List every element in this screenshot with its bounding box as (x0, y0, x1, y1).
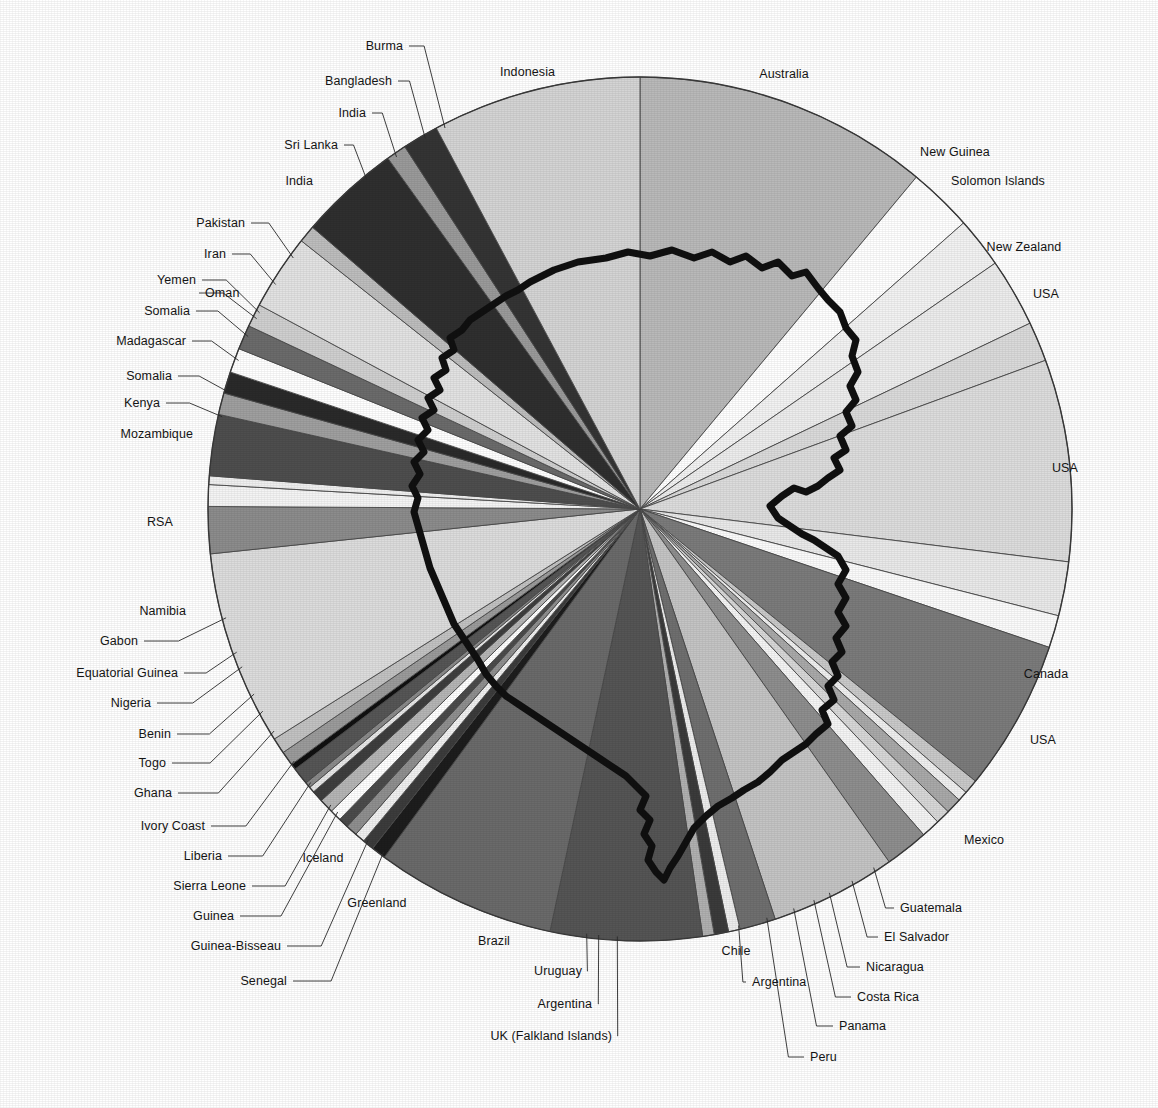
leader-line (587, 934, 588, 971)
slice-label-mozambique: Mozambique (120, 428, 193, 441)
slice-label-equatorial-guinea: Equatorial Guinea (76, 667, 178, 680)
leader-line (829, 893, 860, 967)
slice-label-gabon: Gabon (100, 635, 138, 648)
slice-label-mexico: Mexico (964, 834, 1004, 847)
slice-label-usa-1: USA (1033, 288, 1059, 301)
slice-label-bangladesh: Bangladesh (325, 75, 392, 88)
slice-label-argentina-1: Argentina (752, 976, 806, 989)
slice-label-uk-falkland: UK (Falkland Islands) (490, 1030, 612, 1043)
slice-label-india-1: India (338, 107, 366, 120)
slice-label-brazil: Brazil (478, 935, 510, 948)
leader-line (184, 652, 237, 673)
slice-label-senegal: Senegal (240, 975, 287, 988)
leader-line (814, 900, 851, 997)
leader-line (196, 311, 248, 337)
leader-line (344, 145, 367, 180)
slice-label-usa-3: USA (1030, 734, 1056, 747)
leader-line (293, 852, 384, 981)
slice-label-ghana: Ghana (134, 787, 172, 800)
leader-line (794, 908, 833, 1026)
slice-label-solomon-islands: Solomon Islands (951, 175, 1045, 188)
pie-wheel-chart (0, 0, 1158, 1108)
leader-line (144, 618, 226, 641)
slice-label-ivory-coast: Ivory Coast (141, 820, 205, 833)
slice-label-togo: Togo (138, 757, 166, 770)
leader-line (178, 376, 228, 392)
slice-label-new-zealand: New Zealand (987, 241, 1062, 254)
slice-label-sri-lanka: Sri Lanka (284, 139, 338, 152)
slice-label-australia: Australia (759, 68, 809, 81)
slice-label-somalia-2: Somalia (126, 370, 172, 383)
slice-label-nigeria: Nigeria (111, 697, 151, 710)
slice-label-yemen: Yemen (157, 274, 196, 287)
leader-line (409, 46, 445, 128)
slice-label-iran: Iran (204, 248, 226, 261)
slice-label-greenland: Greenland (347, 897, 406, 910)
slice-label-chile: Chile (722, 945, 751, 958)
slice-label-canada: Canada (1024, 668, 1068, 681)
slice-label-oman: Oman (205, 287, 239, 300)
leader-line (874, 868, 894, 908)
leader-line (232, 254, 276, 285)
leader-line (598, 935, 599, 1004)
leader-line (166, 403, 222, 417)
slice-label-pakistan: Pakistan (196, 217, 245, 230)
slice-label-costa-rica: Costa Rica (857, 991, 919, 1004)
slice-label-guatemala: Guatemala (900, 902, 962, 915)
leader-line (177, 694, 254, 734)
slice-label-nicaragua: Nicaragua (866, 961, 924, 974)
leader-line (228, 782, 311, 856)
leader-line (178, 731, 274, 793)
slice-label-peru: Peru (810, 1051, 837, 1064)
slice-label-iceland: Iceland (302, 852, 343, 865)
slice-label-guinea: Guinea (193, 910, 234, 923)
slice-label-liberia: Liberia (184, 850, 222, 863)
slice-label-panama: Panama (839, 1020, 886, 1033)
figure-canvas: BurmaIndonesiaAustraliaBangladeshIndiaNe… (0, 0, 1158, 1108)
leader-line (192, 341, 239, 361)
slice-label-argentina-2: Argentina (538, 998, 592, 1011)
slice-label-guinea-bissau: Guinea-Bisseau (191, 940, 281, 953)
slice-label-kenya: Kenya (124, 397, 160, 410)
leader-line (617, 936, 618, 1036)
leader-line (172, 711, 263, 763)
leader-line (251, 223, 293, 258)
slice-label-indonesia: Indonesia (500, 66, 555, 79)
slice-label-sierra-leone: Sierra Leone (173, 880, 246, 893)
slice-label-madagascar: Madagascar (116, 335, 186, 348)
slice-label-somalia-1: Somalia (144, 305, 190, 318)
leader-line (398, 81, 425, 139)
leader-line (852, 881, 878, 937)
slice-label-burma: Burma (366, 40, 403, 53)
slice-label-india-2: India (285, 175, 313, 188)
slice-label-new-guinea: New Guinea (920, 146, 990, 159)
slice-label-benin: Benin (139, 728, 171, 741)
slice-label-el-salvador: El Salvador (884, 931, 949, 944)
slice-label-uruguay: Uruguay (534, 965, 582, 978)
leader-line (211, 761, 294, 826)
slice-label-usa-2: USA (1052, 462, 1078, 475)
slice-label-rsa: RSA (147, 516, 173, 529)
leader-line (372, 113, 397, 157)
slice-label-namibia: Namibia (139, 605, 186, 618)
